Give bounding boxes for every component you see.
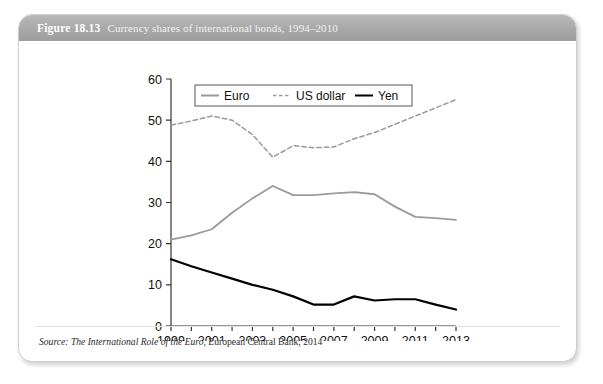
line-chart: 0102030405060 19992001200320052007200920… [19, 41, 577, 341]
y-tick-20: 20 [148, 237, 162, 251]
chart-series-lines [171, 100, 456, 310]
source-note: Source: The International Role of the Eu… [39, 336, 322, 347]
y-tick-40: 40 [148, 155, 162, 169]
figure-number: Figure 18.13 [37, 22, 101, 34]
legend-label-yen: Yen [378, 89, 398, 103]
y-tick-30: 30 [148, 196, 162, 210]
series-line-euro [171, 186, 456, 240]
series-line-us-dollar [171, 100, 456, 158]
figure-card: Figure 18.13 Currency shares of internat… [18, 14, 577, 362]
chart-legend: EuroUS dollarYen [195, 85, 412, 106]
x-tick-2009: 2009 [361, 334, 389, 341]
x-tick-2013: 2013 [442, 334, 470, 341]
legend-label-euro: Euro [224, 89, 250, 103]
y-axis-tick-labels: 0102030405060 [148, 73, 162, 334]
source-title: The International Role of the Euro [71, 336, 204, 347]
x-tick-2007: 2007 [320, 334, 348, 341]
figure-header: Figure 18.13 Currency shares of internat… [19, 15, 576, 41]
series-line-yen [171, 259, 456, 309]
y-tick-50: 50 [148, 114, 162, 128]
footer-divider [35, 326, 560, 327]
x-tick-2011: 2011 [402, 334, 429, 341]
source-rest: , European Central Bank, 2014 [204, 336, 323, 347]
y-tick-10: 10 [148, 278, 162, 292]
source-prefix: Source: [39, 336, 68, 347]
legend-label-us-dollar: US dollar [296, 89, 345, 103]
figure-caption: Currency shares of international bonds, … [108, 22, 338, 34]
chart-plot-region: 0102030405060 19992001200320052007200920… [19, 41, 576, 341]
y-tick-60: 60 [148, 73, 162, 87]
